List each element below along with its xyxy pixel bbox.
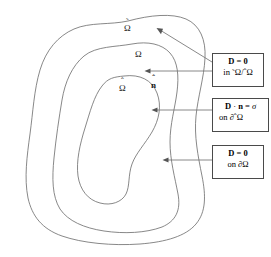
label-normal-vector: ˆn	[151, 81, 156, 90]
inner-region-symbol: Ω	[246, 67, 252, 77]
inner-region-symbol: Ω	[237, 112, 243, 122]
condition-box-flux-on-inner-boundary: D · n = σ on ∂ˆΩ	[212, 98, 269, 132]
condition-3-equation: D = 0	[217, 148, 259, 159]
condition-3-domain: on ∂Ω	[217, 159, 259, 170]
arrow-head-middle-region	[145, 68, 151, 73]
figure-canvas: ˜Ω Ω ˆΩ ˆn D = 0 in ˜Ω/ˆΩ D · n = σ on ∂…	[0, 0, 271, 257]
condition-1-equation: D = 0	[217, 56, 259, 67]
middle-region-symbol: Ω	[135, 49, 142, 59]
arrow-head-inner-boundary	[152, 107, 158, 112]
preposition-on-boundary: on ∂	[227, 159, 242, 169]
label-inner-region: ˆΩ	[119, 84, 126, 93]
equals-operator: =	[243, 101, 252, 111]
outer-region-boundary	[26, 15, 205, 244]
label-outer-region: ˜Ω	[124, 24, 131, 33]
preposition-in: in	[223, 67, 232, 77]
inner-region-boundary	[77, 76, 159, 204]
tilde-accent-icon: ˜	[124, 18, 131, 26]
preposition-on-boundary: on ∂	[219, 112, 234, 122]
hat-accent-icon: ˆ	[151, 75, 156, 83]
middle-region-symbol: Ω	[242, 159, 248, 169]
sigma-symbol: σ	[252, 101, 256, 111]
arrow-head-outer-region	[157, 28, 164, 34]
condition-1-domain: in ˜Ω/ˆΩ	[217, 67, 259, 78]
condition-box-zero-in-annulus: D = 0 in ˜Ω/ˆΩ	[212, 53, 264, 87]
condition-box-zero-on-outer-boundary: D = 0 on ∂Ω	[212, 145, 264, 179]
condition-2-equation: D · n = σ	[217, 101, 264, 112]
label-middle-region: Ω	[135, 50, 142, 59]
condition-2-domain: on ∂ˆΩ	[217, 112, 264, 123]
arrow-head-outer-boundary	[163, 157, 169, 162]
zero-vector: 0	[243, 56, 247, 66]
zero-vector: 0	[243, 148, 247, 158]
hat-accent-icon: ˆ	[119, 78, 126, 86]
